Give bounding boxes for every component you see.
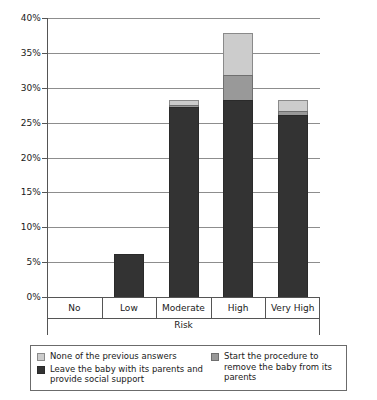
category-divider bbox=[102, 297, 103, 319]
y-axis: 0%5%10%15%20%25%30%35%40% bbox=[0, 18, 41, 297]
bar-stack bbox=[278, 100, 308, 297]
y-axis-tick-label: 30% bbox=[21, 83, 41, 93]
y-axis-tick-label: 0% bbox=[27, 292, 41, 302]
bar-group bbox=[278, 18, 308, 297]
bar-segment bbox=[223, 33, 253, 75]
legend-label: None of the previous answers bbox=[50, 351, 177, 362]
legend-swatch-icon bbox=[37, 366, 45, 374]
bar-segment bbox=[169, 107, 199, 297]
category-divider bbox=[211, 297, 212, 319]
y-axis-tick-label: 15% bbox=[21, 187, 41, 197]
category-divider bbox=[265, 297, 266, 319]
y-axis-tick-label: 35% bbox=[21, 48, 41, 58]
bar-group bbox=[114, 18, 144, 297]
bar-stack bbox=[114, 254, 144, 297]
x-axis-category-band: NoLowModerateHighVery High bbox=[47, 297, 320, 319]
x-axis-category-label: Very High bbox=[265, 297, 320, 319]
y-axis-tick-label: 10% bbox=[21, 222, 41, 232]
bar-stack bbox=[223, 33, 253, 297]
bar-group bbox=[169, 18, 199, 297]
category-divider bbox=[156, 297, 157, 319]
legend-entry: None of the previous answers bbox=[37, 351, 209, 362]
bar-segment bbox=[278, 115, 308, 297]
y-axis-tick-label: 25% bbox=[21, 118, 41, 128]
y-axis-tick-label: 20% bbox=[21, 153, 41, 163]
x-axis-category-label: Low bbox=[102, 297, 157, 319]
y-axis-tick-label: 40% bbox=[21, 13, 41, 23]
bar-group bbox=[59, 18, 89, 297]
y-axis-tick-label: 5% bbox=[27, 257, 41, 267]
x-axis-category-label: Moderate bbox=[156, 297, 211, 319]
bar-stack bbox=[169, 100, 199, 297]
legend-label: Start the procedure to remove the baby f… bbox=[224, 351, 343, 383]
legend-entry: Leave the baby with its parents and prov… bbox=[37, 364, 209, 385]
legend-column-left: None of the previous answersLeave the ba… bbox=[37, 351, 209, 387]
x-axis-category-label: No bbox=[47, 297, 102, 319]
stacked-bar-chart: 0%5%10%15%20%25%30%35%40% NoLowModerateH… bbox=[0, 0, 377, 400]
legend-swatch-icon bbox=[211, 353, 219, 361]
x-axis-category-label: High bbox=[211, 297, 266, 319]
bar-segment bbox=[278, 100, 308, 112]
bar-segment bbox=[223, 100, 253, 297]
bar-segment bbox=[223, 75, 253, 99]
legend-label: Leave the baby with its parents and prov… bbox=[50, 364, 209, 385]
legend-swatch-icon bbox=[37, 353, 45, 361]
x-axis-title: Risk bbox=[47, 320, 320, 330]
legend-column-right: Start the procedure to remove the baby f… bbox=[211, 351, 343, 385]
bar-segment bbox=[114, 254, 144, 297]
bar-group bbox=[223, 18, 253, 297]
legend: None of the previous answersLeave the ba… bbox=[30, 345, 347, 391]
bars-layer bbox=[47, 18, 320, 297]
legend-entry: Start the procedure to remove the baby f… bbox=[211, 351, 343, 383]
